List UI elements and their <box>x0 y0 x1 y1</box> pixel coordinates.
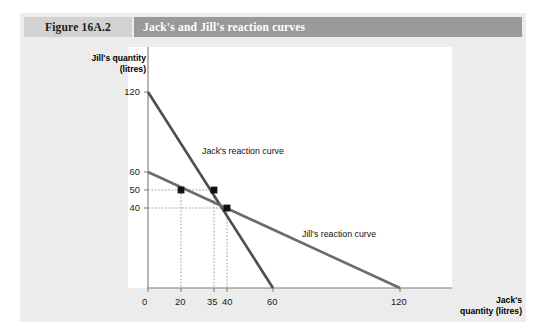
y-tick-label-120: 120 <box>116 86 140 97</box>
x-tick-label-20: 20 <box>175 296 185 307</box>
x-tick-label-120: 120 <box>391 296 407 307</box>
jacks-curve-annotation: Jack's reaction curve <box>202 146 284 156</box>
x-tick-label-35: 35 <box>207 296 217 307</box>
y-tick-label-40: 40 <box>116 202 140 213</box>
x-axis-title-line1: Jack's <box>424 295 522 306</box>
figure-container: Figure 16A.2 Jack's and Jill's reaction … <box>20 13 526 322</box>
y-tick-marks <box>144 92 148 208</box>
y-axis-title-line2: (litres) <box>80 64 146 75</box>
y-axis-title-line1: Jill's quantity <box>80 53 146 64</box>
y-axis-title: Jill's quantity (litres) <box>80 53 146 75</box>
guide-lines <box>148 190 227 288</box>
x-tick-label-60: 60 <box>267 296 277 307</box>
y-tick-label-60: 60 <box>116 166 140 177</box>
data-point-equilibrium <box>224 205 231 212</box>
data-point-a <box>178 187 185 194</box>
x-tick-label-40: 40 <box>222 296 232 307</box>
x-axis-title: Jack's quantity (litres) <box>424 295 522 317</box>
jills-curve-annotation: Jill's reaction curve <box>302 229 376 239</box>
x-tick-marks <box>148 288 400 292</box>
y-tick-label-50: 50 <box>116 184 140 195</box>
data-point-b <box>211 187 218 194</box>
x-tick-label-0: 0 <box>142 296 147 307</box>
x-axis-title-line2: quantity (litres) <box>424 306 522 317</box>
jacks-reaction-curve <box>148 92 273 288</box>
